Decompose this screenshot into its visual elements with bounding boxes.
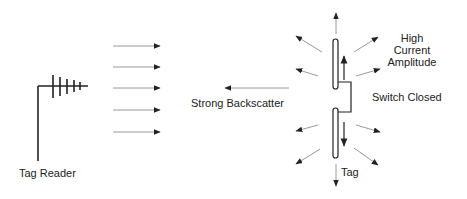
tag-label: Tag [341,166,359,178]
backscatter-label: Strong Backscatter [191,97,284,109]
switch-closed-icon [338,82,351,112]
current-label-line-2: Current [382,44,442,56]
radiation-arrows [296,13,380,186]
current-label-line-1: High [382,32,442,44]
reader-antenna-icon [38,75,88,161]
current-label: High Current Amplitude [382,32,442,68]
incoming-wave-arrows [113,46,160,132]
switch-label: Switch Closed [372,91,442,103]
current-label-line-3: Amplitude [382,56,442,68]
reader-label: Tag Reader [19,167,76,179]
tag-dipole-icon [333,39,338,158]
